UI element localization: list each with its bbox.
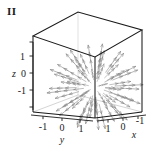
x-tick-label-neg1: -1 [136,115,144,126]
x-tick-label-0: 0 [121,121,126,132]
z-axis-label: z [11,68,16,79]
y-axis-label: y [59,134,65,145]
y-tick-label-neg1: -1 [39,121,47,132]
vector-field-figure: II [0,0,152,148]
z-tick-label-1: 1 [20,51,25,62]
y-tick-label-1: 1 [79,123,84,134]
z-tick-label-neg1: -1 [18,85,26,96]
z-tick-label-0: 0 [21,68,26,79]
y-tick-label-0: 0 [60,122,65,133]
vector-field-plot: 1 0 -1 z -1 0 1 y 1 0 -1 x [0,0,152,148]
x-axis-label: x [131,129,137,140]
x-tick-label-1: 1 [106,123,111,134]
